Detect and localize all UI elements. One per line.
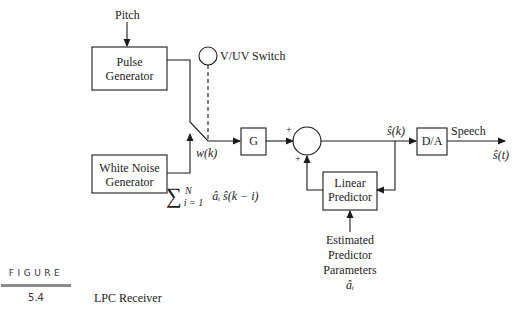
sum-lower-limit: i = 1 (184, 197, 204, 208)
params-line1: Estimated (310, 233, 390, 248)
sum-plus-bottom: + (295, 152, 301, 166)
predictor-to-sum-path (307, 156, 323, 190)
s-hat-k-label: ŝ(k) (387, 124, 405, 138)
figure-caption: LPC Receiver (94, 291, 162, 306)
excitation-label: w(k) (196, 146, 217, 160)
switch-circle (199, 47, 217, 65)
white-noise-generator-label: White Noise Generator (92, 161, 167, 189)
sum-term: âᵢ ŝ(k − i) (212, 189, 258, 203)
linear-predictor-label: Linear Predictor (323, 176, 377, 204)
white-noise-generator-line1: White Noise (92, 161, 167, 175)
switch-label: V/UV Switch (220, 49, 285, 63)
speech-label: Speech (451, 124, 486, 138)
feedback-path (377, 141, 395, 190)
figure-number: 5.4 (0, 292, 72, 303)
pulse-generator-line2: Generator (92, 69, 167, 83)
s-hat-t-label: ŝ(t) (493, 148, 509, 162)
params-line3: Parameters (310, 263, 390, 278)
block-diagram (0, 0, 529, 316)
figure-rule (1, 284, 71, 287)
pitch-label: Pitch (115, 8, 140, 22)
dac-label: D/A (417, 134, 447, 148)
params-line2: Predictor (310, 248, 390, 263)
pulse-path (167, 60, 240, 141)
sum-plus-top: + (286, 123, 292, 137)
sigma-symbol: ∑ (166, 183, 182, 208)
summing-junction (293, 127, 321, 155)
pulse-generator-line1: Pulse (92, 55, 167, 69)
params-line4: âᵢ (310, 278, 390, 293)
noise-path (167, 134, 190, 173)
sum-upper-limit: N (185, 184, 192, 198)
gain-label: G (241, 134, 266, 148)
figure-label: FIGURE (0, 268, 72, 278)
prediction-sum-expression: ∑Ni = 1 âᵢ ŝ(k − i) (166, 186, 259, 204)
white-noise-generator-line2: Generator (92, 175, 167, 189)
linear-predictor-line1: Linear (323, 176, 377, 190)
linear-predictor-line2: Predictor (323, 190, 377, 204)
pulse-generator-label: Pulse Generator (92, 55, 167, 83)
estimated-parameters-label: Estimated Predictor Parameters âᵢ (310, 233, 390, 293)
